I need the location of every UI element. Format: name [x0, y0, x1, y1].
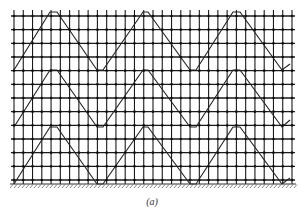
node [142, 97, 145, 100]
node [22, 97, 25, 100]
hatch-mark [166, 185, 169, 189]
node [105, 15, 108, 18]
node [87, 110, 90, 113]
node [226, 151, 229, 154]
node [235, 179, 238, 182]
node [78, 15, 81, 18]
node [96, 138, 99, 141]
node [207, 83, 210, 86]
hatch-mark [150, 185, 153, 189]
node [170, 56, 173, 59]
node [87, 15, 90, 18]
node [78, 124, 81, 127]
node [50, 124, 53, 127]
node [291, 69, 294, 72]
node [235, 151, 238, 154]
node [161, 151, 164, 154]
node [78, 97, 81, 100]
hatch-mark [154, 185, 157, 189]
node [161, 124, 164, 127]
node [291, 97, 294, 100]
hatch-mark [78, 185, 81, 189]
node [68, 138, 71, 141]
node [244, 165, 247, 168]
node [198, 97, 201, 100]
node [263, 97, 266, 100]
node [124, 151, 127, 154]
node [22, 138, 25, 141]
node [124, 97, 127, 100]
node [180, 97, 183, 100]
node [235, 165, 238, 168]
node [142, 179, 145, 182]
node [13, 124, 16, 127]
node [180, 124, 183, 127]
node [272, 42, 275, 45]
hatch-mark [18, 185, 21, 189]
node [142, 110, 145, 113]
node [13, 110, 16, 113]
node [235, 42, 238, 45]
node [180, 165, 183, 168]
node [50, 83, 53, 86]
node [96, 97, 99, 100]
node [87, 56, 90, 59]
node [142, 138, 145, 141]
node [291, 42, 294, 45]
node [198, 165, 201, 168]
node [105, 56, 108, 59]
node [161, 138, 164, 141]
node [68, 110, 71, 113]
node [217, 97, 220, 100]
node [254, 15, 257, 18]
node [180, 42, 183, 45]
node [31, 179, 34, 182]
hatch-mark [250, 185, 253, 189]
node [180, 151, 183, 154]
node [115, 42, 118, 45]
node [124, 124, 127, 127]
node [161, 110, 164, 113]
node [31, 28, 34, 31]
node [22, 124, 25, 127]
node [217, 138, 220, 141]
node [152, 165, 155, 168]
node [105, 165, 108, 168]
node [50, 179, 53, 182]
node [115, 97, 118, 100]
node [31, 110, 34, 113]
node [263, 42, 266, 45]
node [78, 138, 81, 141]
node [189, 124, 192, 127]
node [41, 138, 44, 141]
hatch-mark [122, 185, 125, 189]
node [115, 165, 118, 168]
hatch-mark [266, 185, 269, 189]
node [115, 15, 118, 18]
node [207, 28, 210, 31]
node [254, 165, 257, 168]
node [22, 110, 25, 113]
node [133, 110, 136, 113]
hatch-mark [178, 185, 181, 189]
node [22, 179, 25, 182]
node [41, 56, 44, 59]
node [68, 179, 71, 182]
node [105, 151, 108, 154]
hatch-mark [262, 185, 265, 189]
node [217, 28, 220, 31]
node [180, 110, 183, 113]
node [59, 151, 62, 154]
node [68, 124, 71, 127]
hatch-mark [86, 185, 89, 189]
node [59, 69, 62, 72]
node [115, 56, 118, 59]
node [217, 165, 220, 168]
node [272, 179, 275, 182]
node [50, 151, 53, 154]
node [133, 124, 136, 127]
node [142, 83, 145, 86]
node [152, 83, 155, 86]
node [226, 165, 229, 168]
node [133, 179, 136, 182]
